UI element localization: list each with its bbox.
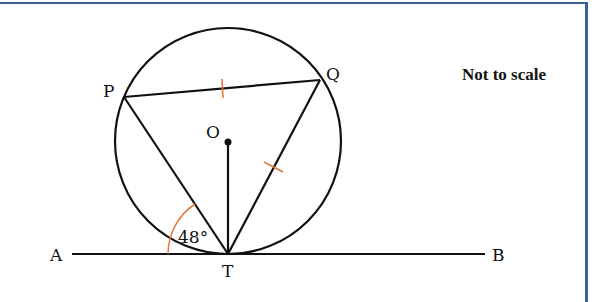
chord-pt (124, 97, 228, 254)
equal-mark-qt (264, 162, 283, 172)
equal-mark-pq (222, 79, 223, 98)
label-t: T (222, 261, 234, 281)
label-b: B (492, 245, 505, 265)
angle-label: 48° (178, 227, 208, 247)
label-q: Q (326, 64, 340, 84)
center-dot (225, 139, 232, 146)
label-o: O (206, 122, 220, 142)
label-p: P (103, 81, 114, 101)
label-a: A (49, 245, 63, 265)
not-to-scale-note: Not to scale (462, 65, 546, 84)
